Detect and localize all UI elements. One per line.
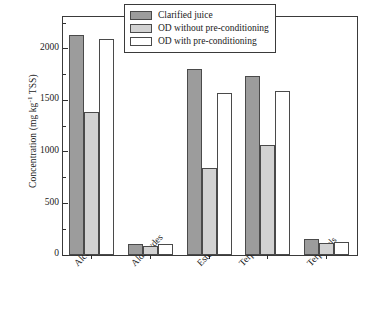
legend-label: OD without pre-conditioning (158, 23, 269, 34)
bar (84, 112, 99, 255)
legend-item: OD with pre-conditioning (130, 35, 269, 48)
y-axis-title-exponent: -1 (26, 97, 34, 103)
bar (275, 91, 290, 255)
y-axis-title-main: Concentration (mg kg (28, 103, 38, 188)
bar (143, 246, 158, 255)
legend-swatch-od-without-preconditioning (130, 24, 152, 33)
y-axis-tick-label: 0 (54, 248, 59, 258)
x-axis-tick-mark (267, 255, 268, 259)
legend-swatch-clarified-juice (130, 11, 152, 20)
bar (245, 76, 260, 255)
y-axis-tick-label: 500 (45, 197, 59, 207)
legend-label: Clarified juice (158, 10, 213, 21)
x-axis-tick-mark (150, 255, 151, 259)
y-axis-tick-label: 2000 (40, 42, 59, 52)
y-axis-tick-label: 1000 (40, 145, 59, 155)
y-axis-tick-mark (63, 203, 68, 204)
x-axis-tick-mark (326, 255, 327, 259)
legend: Clarified juice OD without pre-condition… (124, 4, 276, 53)
bar (128, 244, 143, 255)
legend-item: Clarified juice (130, 9, 269, 22)
y-axis-tick-mark (63, 177, 66, 178)
bar (202, 168, 217, 255)
bar-chart: Concentration (mg kg-1 TSS) 050010001500… (0, 0, 373, 321)
y-axis-title: Concentration (mg kg-1 TSS) (26, 36, 38, 226)
bar (158, 244, 173, 255)
y-axis-tick-mark (63, 100, 68, 101)
legend-item: OD without pre-conditioning (130, 22, 269, 35)
bar (304, 239, 319, 255)
bar (334, 242, 349, 255)
bar (99, 39, 114, 255)
y-axis-tick-mark (63, 48, 68, 49)
legend-swatch-od-with-preconditioning (130, 37, 152, 46)
y-axis-tick-mark (63, 126, 66, 127)
y-axis-tick-mark (63, 74, 66, 75)
bar (187, 69, 202, 255)
bar (217, 93, 232, 255)
y-axis-tick-mark (63, 255, 68, 256)
bar (319, 243, 334, 255)
y-axis-tick-mark (63, 151, 68, 152)
bar (260, 145, 275, 255)
y-axis-tick-label: 1500 (40, 93, 59, 103)
y-axis-title-tail: TSS) (28, 74, 38, 96)
legend-label: OD with pre-conditioning (158, 36, 257, 47)
bar (69, 35, 84, 255)
y-axis-tick-mark (63, 23, 66, 24)
y-axis-tick-mark (63, 229, 66, 230)
